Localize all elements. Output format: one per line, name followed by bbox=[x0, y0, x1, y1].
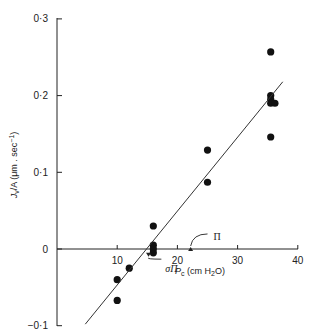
y-tick-label: 0·2 bbox=[34, 90, 49, 101]
data-point bbox=[204, 146, 211, 153]
regression-line bbox=[85, 82, 282, 324]
data-point bbox=[271, 100, 278, 107]
data-point bbox=[150, 249, 157, 256]
annotation-arrow bbox=[191, 234, 208, 246]
data-point bbox=[204, 179, 211, 186]
x-tick-label: 10 bbox=[112, 255, 124, 266]
y-tick-label: −0·1 bbox=[28, 320, 49, 331]
data-point bbox=[267, 133, 274, 140]
data-point bbox=[267, 48, 274, 55]
arrowhead-icon bbox=[146, 253, 151, 257]
data-point bbox=[150, 222, 157, 229]
y-tick-label: 0·1 bbox=[34, 167, 49, 178]
annotation-arrow bbox=[148, 258, 161, 259]
x-ticks: 10203040 bbox=[112, 245, 304, 266]
y-tick-label: 0·3 bbox=[34, 13, 49, 24]
x-tick-label: 40 bbox=[292, 255, 304, 266]
y-tick-label: 0 bbox=[42, 244, 48, 255]
data-point bbox=[114, 297, 121, 304]
scatter-chart: −0·100·10·20·3 10203040 Jv/A (μm . sec−1… bbox=[0, 0, 312, 335]
annotation-label: Π bbox=[214, 231, 221, 242]
data-series bbox=[85, 48, 282, 324]
annotation-label: σΠ bbox=[165, 263, 178, 274]
x-axis-label: Pc (cm H2O) bbox=[175, 266, 225, 277]
x-tick-label: 30 bbox=[232, 255, 244, 266]
y-axis-label: Jv/A (μm . sec−1) bbox=[8, 132, 20, 200]
